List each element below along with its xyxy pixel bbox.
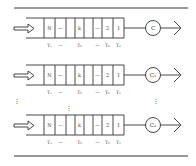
queue-row-1: N — k — 2 1 Tₙ — Tₖ — T₂ T₁ C bbox=[14, 18, 181, 48]
cell-k: k bbox=[78, 25, 82, 31]
cell-1: 1 bbox=[117, 72, 120, 78]
time-T1: T₁ bbox=[116, 90, 121, 95]
cell-k: k bbox=[78, 122, 82, 128]
time-TN: Tₙ bbox=[47, 140, 52, 145]
cell-dots: — bbox=[58, 122, 63, 128]
time-TN: Tₙ bbox=[47, 90, 52, 95]
time-dots: — bbox=[58, 43, 63, 48]
cell-1: 1 bbox=[117, 122, 120, 128]
cell-dots: — bbox=[95, 122, 100, 128]
time-T2: T₂ bbox=[105, 43, 110, 48]
cell-N: N bbox=[47, 25, 52, 31]
queue-buffer bbox=[26, 65, 124, 85]
time-Tk: Tₖ bbox=[77, 90, 82, 95]
time-dots: — bbox=[58, 90, 63, 95]
input-arrow-icon bbox=[14, 24, 34, 33]
server-label: C₁ bbox=[150, 72, 156, 78]
time-T2: T₂ bbox=[105, 140, 110, 145]
time-Tk: Tₖ bbox=[77, 43, 82, 48]
cell-dots: — bbox=[95, 72, 100, 78]
time-TN: Tₙ bbox=[47, 43, 52, 48]
vertical-ellipsis-left: ⋮ bbox=[14, 97, 20, 104]
input-arrow-icon bbox=[14, 121, 34, 130]
queue-buffer bbox=[26, 18, 124, 38]
cell-dots: — bbox=[58, 72, 63, 78]
time-dots: — bbox=[95, 140, 100, 145]
cell-2: 2 bbox=[106, 72, 109, 78]
parallel-queue-diagram: N — k — 2 1 Tₙ — Tₖ — T₂ T₁ C bbox=[0, 0, 196, 166]
time-Tk: Tₖ bbox=[77, 140, 82, 145]
cell-2: 2 bbox=[106, 122, 109, 128]
cell-N: N bbox=[47, 122, 52, 128]
vertical-ellipsis-middle: ⋮ bbox=[66, 104, 72, 111]
time-T2: T₂ bbox=[105, 90, 110, 95]
time-dots: — bbox=[95, 90, 100, 95]
cell-dots: — bbox=[95, 25, 100, 31]
queue-buffer bbox=[26, 115, 124, 135]
cell-N: N bbox=[47, 72, 52, 78]
server-label: C bbox=[151, 25, 155, 31]
cell-dots: — bbox=[58, 25, 63, 31]
time-dots: — bbox=[58, 140, 63, 145]
queue-row-n: N — k — 2 1 Tₙ — Tₖ — T₂ T₁ Cₙ bbox=[14, 115, 181, 145]
cell-1: 1 bbox=[117, 25, 120, 31]
time-T1: T₁ bbox=[116, 43, 121, 48]
cell-2: 2 bbox=[106, 25, 109, 31]
time-T1: T₁ bbox=[116, 140, 121, 145]
cell-k: k bbox=[78, 72, 82, 78]
server-label: Cₙ bbox=[150, 122, 157, 128]
vertical-ellipsis-right: ⋮ bbox=[153, 97, 159, 104]
queue-row-2: N — k — 2 1 Tₙ — Tₖ — T₂ T₁ C₁ bbox=[14, 65, 181, 95]
input-arrow-icon bbox=[14, 71, 34, 80]
time-dots: — bbox=[95, 43, 100, 48]
